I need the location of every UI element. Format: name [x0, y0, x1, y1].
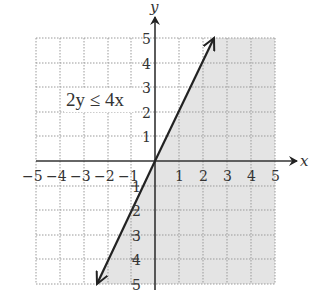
svg-text:−4: −4	[46, 168, 67, 184]
inequality-label: 2y ≤ 4x	[66, 89, 124, 110]
svg-text:5: 5	[142, 31, 151, 47]
svg-text:3: 3	[132, 228, 141, 244]
x-axis-label: x	[300, 152, 309, 170]
svg-text:4: 4	[142, 56, 151, 72]
svg-text:3: 3	[142, 80, 151, 96]
svg-text:2: 2	[132, 203, 141, 219]
y-axis-label: y	[149, 0, 159, 16]
svg-text:2: 2	[199, 168, 208, 184]
svg-text:−3: −3	[70, 168, 91, 184]
svg-text:1: 1	[132, 179, 141, 195]
svg-text:1: 1	[175, 168, 184, 184]
inequality-graph: x y −5 −4 −3 −2 −1 1 2 3 4 5 5 4 3 2 1 1…	[0, 0, 319, 308]
svg-text:5: 5	[271, 168, 280, 184]
svg-text:4: 4	[132, 252, 141, 268]
svg-text:−5: −5	[22, 168, 43, 184]
svg-text:1: 1	[142, 129, 151, 145]
svg-text:2: 2	[142, 105, 151, 121]
svg-text:−2: −2	[94, 168, 115, 184]
svg-text:5: 5	[132, 277, 141, 293]
svg-text:3: 3	[223, 168, 232, 184]
svg-text:4: 4	[247, 168, 256, 184]
